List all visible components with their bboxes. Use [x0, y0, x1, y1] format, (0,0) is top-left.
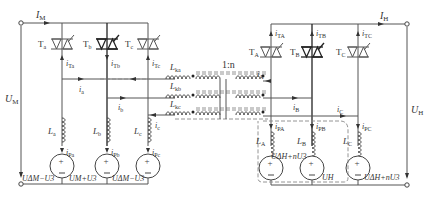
svg-text:Lkc: Lkc [169, 99, 181, 110]
terminal-bottom-right [405, 183, 409, 187]
svg-text:IM: IM [35, 9, 46, 22]
inductor-lb-upper-icon [312, 132, 315, 156]
svg-text:ia: ia [79, 85, 84, 95]
leakage-inductor-kc-icon [166, 112, 190, 115]
svg-text:iB: iB [293, 103, 299, 113]
svg-text:Ta: Ta [38, 39, 47, 50]
inductor-la-icon [62, 118, 65, 142]
terminal-top-right [405, 22, 409, 26]
svg-text:IH: IH [379, 10, 388, 23]
svg-text:iA: iA [257, 70, 264, 80]
svg-text:LA: LA [255, 136, 266, 147]
svg-text:La: La [47, 126, 56, 137]
svg-text:iTA: iTA [275, 29, 285, 39]
svg-text:iTB: iTB [316, 29, 326, 39]
svg-text:iPA: iPA [275, 122, 285, 132]
svg-text:iPb: iPb [111, 148, 120, 158]
svg-text:iPB: iPB [316, 122, 326, 132]
svg-text:Lc: Lc [133, 126, 142, 137]
svg-text:Tc: Tc [125, 39, 134, 50]
leakage-inductor-kb-icon [166, 95, 190, 98]
svg-text:iPa: iPa [66, 148, 75, 158]
svg-text:iTC: iTC [362, 29, 372, 39]
svg-text:LC: LC [342, 136, 352, 147]
svg-text:ib: ib [118, 103, 123, 113]
svg-text:Lb: Lb [92, 126, 101, 137]
svg-text:iPC: iPC [362, 122, 372, 132]
svg-text:UΔM−U3: UΔM−U3 [22, 174, 54, 183]
svg-text:LB: LB [296, 136, 306, 147]
inductor-lb-icon [107, 118, 110, 142]
terminal-top-left [19, 21, 23, 25]
svg-text:UΔH+nU3: UΔH+nU3 [364, 173, 399, 182]
transformer: 1:n [166, 59, 268, 119]
svg-text:ic: ic [155, 121, 160, 131]
svg-text:UM+U3: UM+U3 [69, 174, 97, 183]
svg-text:UΔH+nU3: UΔH+nU3 [271, 152, 306, 161]
svg-text:iTc: iTc [152, 59, 160, 69]
svg-text:Tb: Tb [83, 39, 92, 50]
inductor-lc-upper-icon [358, 132, 361, 156]
svg-text:iTb: iTb [111, 59, 120, 69]
leakage-inductor-ka-icon [166, 76, 190, 79]
turns-ratio-label: 1:n [222, 59, 235, 70]
svg-text:iC: iC [337, 105, 343, 115]
svg-text:iPc: iPc [152, 148, 161, 158]
svg-text:UH: UH [411, 104, 423, 117]
circuit-diagram: + [0, 0, 427, 197]
right-network [258, 22, 409, 187]
svg-text:Lkb: Lkb [169, 81, 181, 92]
svg-text:Lka: Lka [169, 62, 181, 73]
svg-text:UH: UH [322, 173, 335, 182]
svg-text:TA: TA [249, 47, 260, 58]
inductor-lc-icon [148, 118, 151, 142]
svg-text:UM: UM [5, 93, 19, 106]
svg-text:UΔM−U3: UΔM−U3 [112, 174, 144, 183]
svg-text:TB: TB [290, 47, 300, 58]
svg-text:iTa: iTa [66, 59, 74, 69]
svg-text:TC: TC [336, 47, 346, 58]
